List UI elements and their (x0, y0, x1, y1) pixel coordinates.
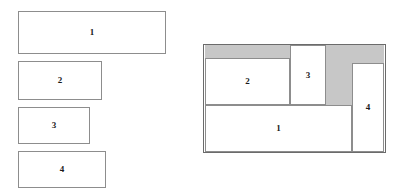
packed-piece-1-label: 1 (276, 124, 281, 133)
waste-region-right-column (326, 63, 352, 105)
waste-region-top-left (205, 45, 290, 58)
input-piece-1-label: 1 (90, 28, 95, 37)
input-piece-2[interactable]: 2 (18, 61, 102, 100)
packed-piece-2-label: 2 (245, 77, 250, 86)
packed-piece-4-label: 4 (366, 103, 371, 112)
input-piece-3[interactable]: 3 (18, 107, 90, 144)
input-piece-2-label: 2 (58, 76, 63, 85)
packed-piece-4[interactable]: 4 (352, 63, 384, 152)
packing-diagram: 1 2 3 4 2 3 1 4 (0, 0, 413, 194)
packed-piece-1[interactable]: 1 (205, 105, 352, 152)
packed-piece-3[interactable]: 3 (290, 45, 326, 105)
input-piece-3-label: 3 (52, 121, 57, 130)
packed-piece-3-label: 3 (306, 71, 311, 80)
input-piece-1[interactable]: 1 (18, 11, 166, 54)
input-piece-4-label: 4 (60, 165, 65, 174)
packing-bin: 2 3 1 4 (203, 44, 386, 153)
waste-region-top-right (326, 45, 384, 63)
packed-piece-2[interactable]: 2 (205, 58, 290, 105)
input-piece-4[interactable]: 4 (18, 151, 106, 188)
